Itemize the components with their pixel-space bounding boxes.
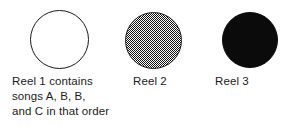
reel-1-caption: Reel 1 contains songs A, B, B, and C in … — [12, 74, 142, 119]
reel-3-circle — [222, 12, 278, 68]
reels-diagram: Reel 1 contains songs A, B, B, and C in … — [0, 0, 284, 137]
reel-1-circle — [30, 10, 89, 69]
reel-2-circle — [125, 12, 182, 69]
reel-2-caption: Reel 2 — [133, 74, 213, 89]
reel-3-caption: Reel 3 — [215, 74, 284, 89]
